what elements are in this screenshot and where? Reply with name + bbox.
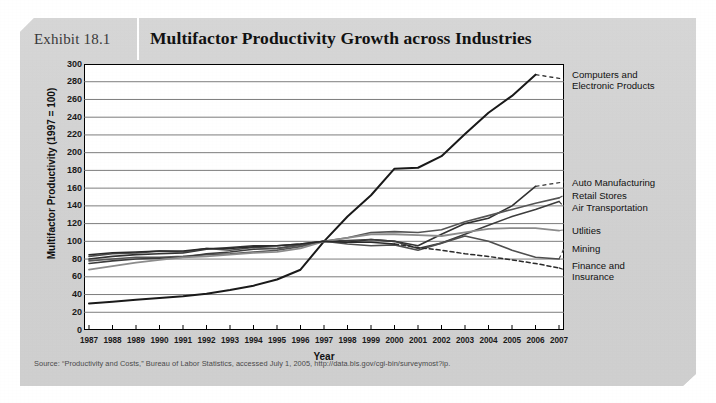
x-tick-label: 2007 <box>550 336 568 345</box>
y-tick-label: 80 <box>72 255 82 264</box>
series-line-0 <box>89 75 536 304</box>
x-tick-label: 1995 <box>268 336 286 345</box>
series-label-0: Computers andElectronic Products <box>572 69 655 91</box>
x-tick-label: 1992 <box>197 336 215 345</box>
x-tick-label: 1988 <box>103 336 121 345</box>
x-tick-label: 2000 <box>385 336 403 345</box>
series-leader-line <box>559 248 564 259</box>
x-tick-label: 1999 <box>362 336 380 345</box>
series-label-2: Retail Stores <box>572 190 627 201</box>
y-tick-label: 20 <box>72 308 82 317</box>
exhibit-number: Exhibit 18.1 <box>34 31 111 48</box>
x-tick-label: 2002 <box>432 336 450 345</box>
series-leader-line <box>559 268 564 270</box>
series-label-line: Mining <box>572 243 600 254</box>
series-label-line: Finance and <box>572 260 625 271</box>
y-tick-label: 40 <box>72 290 82 299</box>
y-tick-label: 200 <box>67 148 82 157</box>
y-tick-label: 120 <box>67 219 82 228</box>
series-label-line: Auto Manufacturing <box>572 177 655 188</box>
y-tick-label: 220 <box>67 130 82 139</box>
y-tick-label: 100 <box>67 237 82 246</box>
series-leader-line <box>559 195 564 198</box>
series-label-4: Utlities <box>572 225 601 236</box>
x-tick-label: 2005 <box>503 336 521 345</box>
x-tick-label: 2001 <box>409 336 427 345</box>
x-tick-label: 1991 <box>174 336 192 345</box>
series-label-1: Auto Manufacturing <box>572 177 655 188</box>
x-tick-label: 1989 <box>127 336 145 345</box>
x-tick-label: 1993 <box>221 336 239 345</box>
page-title: Multifactor Productivity Growth across I… <box>150 28 532 49</box>
exhibit-header: Exhibit 18.1 Multifactor Productivity Gr… <box>34 28 674 58</box>
plot-wrapper <box>84 64 564 330</box>
x-tick-label: 1996 <box>291 336 309 345</box>
series-line-6 <box>395 244 560 268</box>
series-label-line: Computers and <box>572 69 655 80</box>
series-label-line: Retail Stores <box>572 190 627 201</box>
source-note: Source: “Productivity and Costs,” Bureau… <box>34 359 450 368</box>
series-leader-line <box>536 75 565 79</box>
y-axis-tick-labels: 0204060801001201401601802002202402602803… <box>54 64 82 330</box>
y-tick-label: 0 <box>77 326 82 335</box>
series-label-5: Mining <box>572 243 600 254</box>
x-tick-label: 2003 <box>456 336 474 345</box>
series-label-line: Utlities <box>572 225 601 236</box>
y-tick-label: 240 <box>67 113 82 122</box>
series-leader-line <box>536 182 565 186</box>
series-label-3: Air Transportation <box>572 202 648 213</box>
series-line-4 <box>89 228 559 270</box>
y-tick-label: 140 <box>67 201 82 210</box>
y-tick-label: 300 <box>67 60 82 69</box>
series-label-6: Finance andInsurance <box>572 260 625 282</box>
exhibit-page: Exhibit 18.1 Multifactor Productivity Gr… <box>0 0 716 403</box>
chart-canvas <box>84 64 564 330</box>
x-tick-label: 2004 <box>479 336 497 345</box>
series-label-line: Air Transportation <box>572 202 648 213</box>
x-tick-label: 1997 <box>315 336 333 345</box>
series-label-list: Computers andElectronic ProductsAuto Man… <box>572 64 712 330</box>
exhibit-panel: Exhibit 18.1 Multifactor Productivity Gr… <box>20 18 696 386</box>
series-line-1 <box>89 186 536 259</box>
x-tick-label: 1994 <box>244 336 262 345</box>
x-axis-tick-labels: 1987198819891990199119921993199419951996… <box>84 336 564 350</box>
y-tick-label: 160 <box>67 184 82 193</box>
x-tick-label: 1998 <box>338 336 356 345</box>
series-leader-line <box>559 230 564 231</box>
y-tick-label: 260 <box>67 95 82 104</box>
x-tick-label: 2006 <box>526 336 544 345</box>
header-divider <box>137 18 139 60</box>
y-tick-label: 280 <box>67 77 82 86</box>
y-tick-label: 60 <box>72 272 82 281</box>
series-label-line: Insurance <box>572 271 625 282</box>
x-tick-label: 1990 <box>150 336 168 345</box>
series-label-line: Electronic Products <box>572 80 655 91</box>
y-axis-title: Multifactor Productivity (1997 = 100) <box>46 59 57 289</box>
y-tick-label: 180 <box>67 166 82 175</box>
series-line-5 <box>89 236 559 259</box>
x-tick-label: 1987 <box>80 336 98 345</box>
